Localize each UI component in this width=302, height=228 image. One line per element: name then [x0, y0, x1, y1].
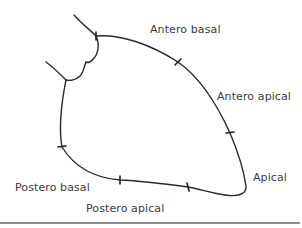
tick-mark-antero-apical — [226, 132, 234, 133]
tick-mark-apical — [187, 183, 189, 191]
anterior-wall — [96, 36, 246, 196]
aortic-root-line — [74, 15, 96, 36]
label-apical: Apical — [253, 171, 287, 184]
label-antero-apical: Antero apical — [217, 90, 291, 103]
label-postero-basal: Postero basal — [15, 181, 90, 194]
left-atrium-line — [46, 62, 66, 80]
tick-mark-postero-basal — [58, 146, 66, 147]
bottom-divider-rule — [0, 222, 300, 224]
label-antero-basal: Antero basal — [150, 23, 221, 36]
atrial-bulge-lower — [66, 62, 86, 80]
posterior-wall — [60, 80, 225, 195]
label-postero-apical: Postero apical — [86, 202, 164, 215]
